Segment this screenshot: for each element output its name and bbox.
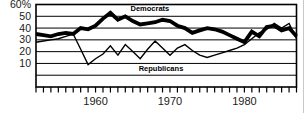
democrats-label: Democrats	[131, 4, 170, 13]
x-axis-label: 1970	[158, 95, 182, 107]
x-axis-label: 1980	[232, 95, 256, 107]
plot-area	[36, 5, 297, 88]
y-axis-label: 10	[19, 57, 31, 69]
party-trend-chart: 60%5040302010196019701980DemocratsRepubl…	[0, 0, 303, 113]
y-axis-label: 40	[19, 22, 31, 34]
y-axis-label: 30	[19, 33, 31, 45]
y-axis-label: 20	[19, 45, 31, 57]
chart-canvas: 60%5040302010196019701980DemocratsRepubl…	[0, 0, 303, 113]
y-axis-label: 50	[19, 10, 31, 22]
x-axis-label: 1960	[83, 95, 107, 107]
republicans-label: Republicans	[139, 64, 184, 73]
y-axis-label: 60%	[10, 0, 31, 10]
